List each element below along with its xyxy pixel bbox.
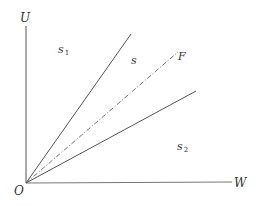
w-axis-label: W — [234, 176, 248, 190]
region-s1-label: s1 — [58, 43, 69, 57]
region-s1-sub: 1 — [65, 49, 69, 57]
region-s1-base: s — [58, 43, 64, 56]
region-s2-base: s — [177, 140, 183, 153]
diagram-canvas: U W O F s1 s s2 — [0, 0, 258, 206]
region-s-label: s — [131, 54, 137, 67]
origin-label: O — [14, 184, 24, 198]
u-axis-label: U — [20, 11, 31, 25]
horizontal-axis — [26, 182, 232, 183]
f-ray-dashdot-line — [26, 52, 178, 183]
lower-boundary-line — [26, 91, 196, 183]
region-s2-label: s2 — [177, 140, 188, 154]
f-ray-label: F — [177, 50, 186, 63]
region-s2-sub: 2 — [184, 146, 188, 154]
upper-boundary-line — [26, 34, 131, 183]
